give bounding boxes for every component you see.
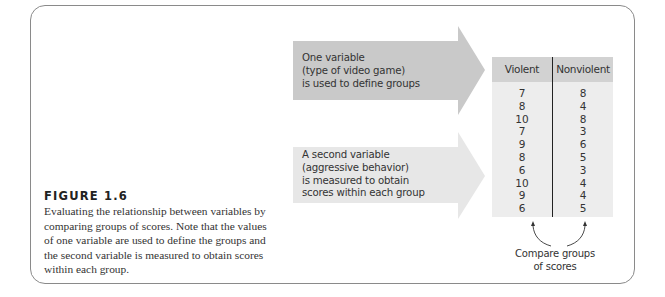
table-cell: 10 [492, 113, 552, 126]
table-cell: 6 [492, 202, 552, 215]
table-cell: 4 [553, 100, 613, 113]
scores-table: Violent Nonviolent 7 8 10 7 9 8 6 10 9 6… [492, 57, 613, 217]
arrow-2-line: (aggressive behavior) [302, 162, 425, 175]
caption-line: the second variable is measured to obtai… [44, 248, 284, 263]
compare-groups-label: Compare groups of scores [505, 248, 605, 273]
column-header-violent: Violent [492, 63, 552, 75]
caption-line: of one variable are used to define the g… [44, 233, 284, 248]
arrow-1-line: (type of video game) [302, 65, 420, 78]
table-cell: 7 [492, 87, 552, 100]
table-cell: 8 [492, 100, 552, 113]
arrow-1-line: One variable [302, 52, 420, 65]
table-cell: 4 [553, 177, 613, 190]
table-cell: 8 [553, 87, 613, 100]
arrow-1-line: is used to define groups [302, 78, 420, 91]
compare-arrow-right [567, 226, 585, 246]
caption-line: comparing groups of scores. Note that th… [44, 219, 284, 234]
table-cell: 5 [553, 151, 613, 164]
arrow-1-text: One variable (type of video game) is use… [302, 52, 420, 90]
table-cell: 10 [492, 177, 552, 190]
arrow-2-line: A second variable [302, 149, 425, 162]
compare-line: Compare groups [505, 248, 605, 261]
table-cell: 8 [492, 151, 552, 164]
table-cell: 9 [492, 138, 552, 151]
table-cell: 3 [553, 125, 613, 138]
arrow-2-line: is measured to obtain [302, 175, 425, 188]
table-cell: 7 [492, 125, 552, 138]
table-cell: 3 [553, 164, 613, 177]
arrow-2-line: scores within each group [302, 187, 425, 200]
violent-scores-column: 7 8 10 7 9 8 6 10 9 6 [492, 87, 552, 215]
table-cell: 6 [492, 164, 552, 177]
column-header-nonviolent: Nonviolent [553, 63, 613, 75]
nonviolent-scores-column: 8 4 8 3 6 5 3 4 4 5 [553, 87, 613, 215]
compare-line: of scores [505, 261, 605, 274]
figure-label: FIGURE 1.6 [44, 189, 128, 203]
arrow-2-text: A second variable (aggressive behavior) … [302, 149, 425, 200]
table-cell: 8 [553, 113, 613, 126]
table-cell: 4 [553, 189, 613, 202]
arrowhead-right-icon [583, 221, 587, 226]
table-cell: 5 [553, 202, 613, 215]
table-cell: 6 [553, 138, 613, 151]
arrowhead-left-icon [531, 221, 535, 226]
figure-caption: Evaluating the relationship between vari… [44, 204, 284, 277]
table-cell: 9 [492, 189, 552, 202]
caption-line: within each group. [44, 262, 284, 277]
compare-arrow-left [533, 226, 551, 246]
caption-line: Evaluating the relationship between vari… [44, 204, 284, 219]
